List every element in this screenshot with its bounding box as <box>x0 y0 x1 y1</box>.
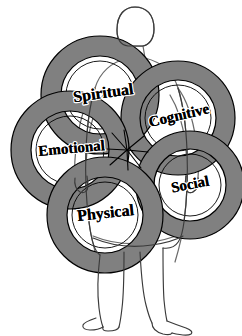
wellness-rings-diagram: Spiritual Spiritual Cognitive Cognitive … <box>0 0 242 336</box>
wellness-diagram-container: Spiritual Spiritual Cognitive Cognitive … <box>0 0 242 336</box>
